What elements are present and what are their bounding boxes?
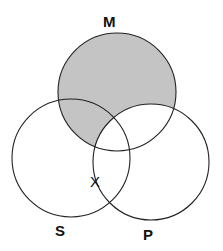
label-s: S	[55, 222, 65, 239]
label-m: M	[103, 13, 116, 30]
marker-x: X	[90, 173, 100, 190]
venn-diagram: M S P X	[0, 0, 223, 251]
label-p: P	[143, 226, 153, 243]
shaded-region-m-minus-p	[58, 33, 176, 151]
